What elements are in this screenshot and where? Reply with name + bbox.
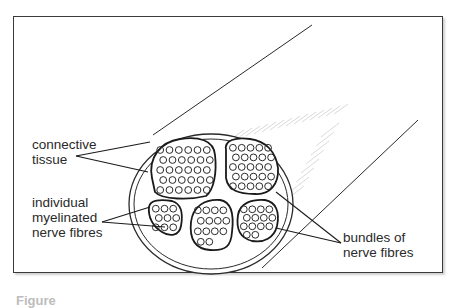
- figure-caption: Figure: [16, 293, 56, 308]
- label-bundles-of-nerve-fibres: bundles of nerve fibres: [343, 230, 414, 260]
- bundle-top-right: [226, 138, 278, 194]
- cylinder-top-edge: [153, 25, 312, 135]
- label-myelinated-nerve-fibres: individual myelinated nerve fibres: [32, 195, 103, 240]
- label-connective-tissue: connective tissue: [32, 137, 97, 167]
